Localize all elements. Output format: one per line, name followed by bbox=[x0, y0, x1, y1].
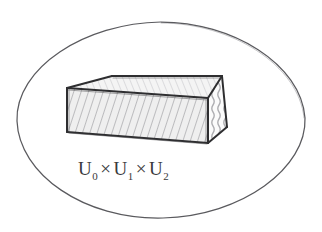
sketch-canvas: U0×U1×U2 bbox=[0, 0, 322, 232]
label-term-0-base: U bbox=[78, 158, 92, 179]
label-term-2-base: U bbox=[149, 158, 163, 179]
label-operator-2: × bbox=[136, 158, 147, 179]
product-space-label: U0×U1×U2 bbox=[78, 158, 169, 182]
label-term-2-sub: 2 bbox=[163, 170, 169, 182]
label-operator-1: × bbox=[100, 158, 111, 179]
sketch-drawing: U0×U1×U2 bbox=[0, 0, 322, 232]
label-term-1-base: U bbox=[113, 158, 127, 179]
label-term-0-sub: 0 bbox=[92, 170, 98, 182]
svg-text:U0×U1×U2: U0×U1×U2 bbox=[78, 158, 169, 182]
label-term-1-sub: 1 bbox=[128, 170, 134, 182]
